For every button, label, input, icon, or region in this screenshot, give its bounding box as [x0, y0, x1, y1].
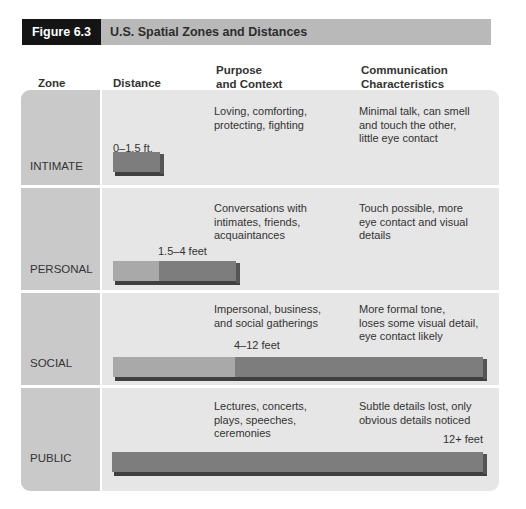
- zone-name: PERSONAL: [30, 263, 93, 275]
- zone-cell: SOCIAL: [21, 293, 100, 385]
- zone-name: INTIMATE: [30, 160, 83, 172]
- column-header-distance: Distance: [113, 76, 161, 90]
- communication-text: Minimal talk, can smell and touch the ot…: [359, 105, 470, 146]
- bar-side: [483, 359, 487, 379]
- figure-title: U.S. Spatial Zones and Distances: [101, 19, 307, 45]
- bar-segment: [113, 152, 160, 172]
- communication-text: Subtle details lost, only obvious detail…: [359, 400, 472, 427]
- distance-bar: [113, 357, 483, 377]
- bar-shadow: [114, 472, 487, 476]
- distance-bar: [113, 152, 160, 172]
- distance-label: 12+ feet: [443, 433, 483, 445]
- table-row-public: PUBLIC 12+ feet Lectures, concerts, play…: [21, 388, 499, 491]
- table-row-personal: PERSONAL 1.5–4 feet Conversations with i…: [21, 188, 499, 290]
- zone-cell: PERSONAL: [21, 188, 100, 290]
- distance-bar: [112, 452, 483, 472]
- communication-text: More formal tone, loses some visual deta…: [359, 303, 478, 344]
- distance-label: 4–12 feet: [234, 339, 280, 351]
- bar-side: [160, 154, 164, 174]
- bar-segment-prior: [113, 357, 235, 377]
- table-row-intimate: INTIMATE 0–1.5 ft. Loving, comforting, p…: [21, 90, 499, 185]
- column-header-communication: Communication Characteristics: [361, 63, 448, 91]
- bar-segment: [235, 357, 483, 377]
- zones-table: INTIMATE 0–1.5 ft. Loving, comforting, p…: [21, 90, 499, 491]
- zone-name: SOCIAL: [30, 357, 72, 369]
- purpose-text: Lectures, concerts, plays, speeches, cer…: [214, 400, 307, 441]
- purpose-text: Conversations with intimates, friends, a…: [214, 202, 307, 243]
- column-header-zone: Zone: [38, 76, 65, 90]
- content-cell: 0–1.5 ft. Loving, comforting, protecting…: [102, 90, 499, 185]
- bar-side: [483, 454, 487, 474]
- distance-label: 1.5–4 feet: [158, 245, 207, 257]
- figure-label: Figure 6.3: [22, 19, 101, 45]
- table-row-social: SOCIAL 4–12 feet Impersonal, business, a…: [21, 293, 499, 385]
- communication-text: Touch possible, more eye contact and vis…: [359, 202, 468, 243]
- content-cell: 1.5–4 feet Conversations with intimates,…: [102, 188, 499, 290]
- column-header-purpose: Purpose and Context: [216, 63, 282, 91]
- bar-shadow: [115, 377, 487, 381]
- zone-name: PUBLIC: [30, 452, 72, 464]
- bar-segment: [112, 452, 483, 472]
- bar-side: [236, 263, 240, 283]
- zone-cell: PUBLIC: [21, 388, 100, 491]
- bar-shadow: [115, 281, 240, 285]
- bar-shadow: [115, 172, 164, 176]
- zone-cell: INTIMATE: [21, 90, 100, 185]
- purpose-text: Impersonal, business, and social gatheri…: [214, 303, 321, 330]
- purpose-text: Loving, comforting, protecting, fighting: [214, 105, 307, 132]
- figure-header: Figure 6.3 U.S. Spatial Zones and Distan…: [22, 19, 491, 45]
- distance-bar: [113, 261, 236, 281]
- bar-segment-prior: [113, 261, 159, 281]
- bar-segment: [159, 261, 236, 281]
- content-cell: 12+ feet Lectures, concerts, plays, spee…: [102, 388, 499, 491]
- content-cell: 4–12 feet Impersonal, business, and soci…: [102, 293, 499, 385]
